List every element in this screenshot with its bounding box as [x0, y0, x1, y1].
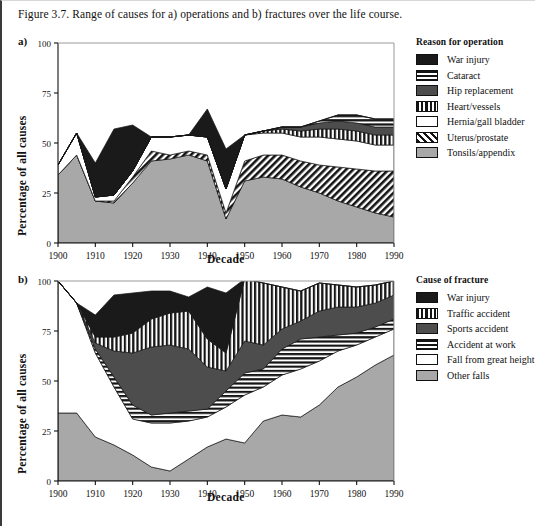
figure-caption: Figure 3.7. Range of causes for a) opera… [18, 7, 518, 21]
legend-item-label: Heart/vessels [447, 101, 500, 112]
y-tick-label: 25 [42, 427, 52, 437]
legend-swatch-icon [416, 85, 438, 96]
x-tick-label: 1920 [123, 489, 142, 499]
legend-swatch-icon [416, 308, 438, 319]
legend-swatch-icon [416, 339, 438, 350]
legend-swatch-icon [416, 323, 438, 334]
x-tick-label: 1990 [385, 251, 404, 261]
legend-item[interactable]: Sports accident [416, 323, 534, 334]
x-tick-label: 1940 [198, 489, 217, 499]
x-tick-label: 1910 [86, 489, 105, 499]
x-tick-label: 1910 [86, 251, 105, 261]
legend-item-label: Uterus/prostate [447, 132, 508, 143]
panel-a-legend-title: Reason for operation [416, 37, 524, 47]
legend-item-label: Other falls [447, 370, 490, 381]
legend-item-label: War injury [447, 292, 490, 303]
y-tick-label: 75 [42, 327, 52, 337]
legend-swatch-icon [416, 132, 438, 143]
legend-swatch-icon [416, 54, 438, 65]
legend-item[interactable]: Uterus/prostate [416, 132, 524, 143]
legend-swatch-icon [416, 147, 438, 158]
panel-b-legend-title: Cause of fracture [416, 275, 534, 285]
legend-swatch-icon [416, 116, 438, 127]
y-tick-label: 100 [38, 277, 52, 287]
y-tick-label: 100 [38, 39, 52, 49]
y-tick-label: 0 [47, 477, 52, 487]
x-tick-label: 1900 [49, 251, 68, 261]
legend-item[interactable]: Heart/vessels [416, 101, 524, 112]
x-tick-label: 1970 [310, 489, 329, 499]
legend-swatch-icon [416, 292, 438, 303]
x-tick-label: 1920 [123, 251, 142, 261]
y-tick-label: 75 [42, 89, 52, 99]
x-tick-label: 1930 [161, 489, 180, 499]
x-tick-label: 1990 [385, 489, 404, 499]
legend-item-label: Tonsils/appendix [447, 147, 515, 158]
y-tick-label: 50 [42, 377, 52, 387]
x-tick-label: 1980 [347, 489, 366, 499]
legend-item-label: Accident at work [447, 339, 516, 350]
legend-item-label: Traffic accident [447, 308, 510, 319]
x-tick-label: 1970 [310, 251, 329, 261]
y-tick-label: 25 [42, 189, 52, 199]
legend-item[interactable]: Accident at work [416, 339, 534, 350]
panel-b-plot: 0255075100190019101920193019401950196019… [2, 269, 422, 514]
x-tick-label: 1930 [161, 251, 180, 261]
legend-item-label: Fall from great height [447, 354, 534, 365]
legend-item[interactable]: Fall from great height [416, 354, 534, 365]
legend-item[interactable]: Hip replacement [416, 85, 524, 96]
y-tick-label: 50 [42, 139, 52, 149]
legend-item-label: Sports accident [447, 323, 508, 334]
x-tick-label: 1960 [273, 251, 292, 261]
legend-item-label: Hernia/gall bladder [447, 116, 524, 127]
x-tick-label: 1940 [198, 251, 217, 261]
legend-item-label: Cataract [447, 70, 480, 81]
legend-swatch-icon [416, 101, 438, 112]
x-tick-label: 1900 [49, 489, 68, 499]
panel-a-legend: Reason for operation War injuryCataractH… [416, 37, 524, 163]
legend-swatch-icon [416, 354, 438, 365]
legend-item[interactable]: Cataract [416, 70, 524, 81]
legend-item[interactable]: Tonsils/appendix [416, 147, 524, 158]
legend-item-label: Hip replacement [447, 85, 513, 96]
legend-item[interactable]: Traffic accident [416, 308, 534, 319]
legend-item[interactable]: War injury [416, 54, 524, 65]
legend-item[interactable]: War injury [416, 292, 534, 303]
x-tick-label: 1950 [235, 251, 254, 261]
legend-swatch-icon [416, 370, 438, 381]
y-tick-label: 0 [47, 239, 52, 249]
legend-item[interactable]: Hernia/gall bladder [416, 116, 524, 127]
x-tick-label: 1960 [273, 489, 292, 499]
x-tick-label: 1980 [347, 251, 366, 261]
panel-b-legend: Cause of fracture War injuryTraffic acci… [416, 275, 534, 385]
panel-a-plot: 0255075100190019101920193019401950196019… [2, 31, 422, 276]
legend-item[interactable]: Other falls [416, 370, 534, 381]
x-tick-label: 1950 [235, 489, 254, 499]
figure-page: Figure 3.7. Range of causes for a) opera… [0, 0, 535, 526]
legend-swatch-icon [416, 70, 438, 81]
legend-item-label: War injury [447, 54, 490, 65]
